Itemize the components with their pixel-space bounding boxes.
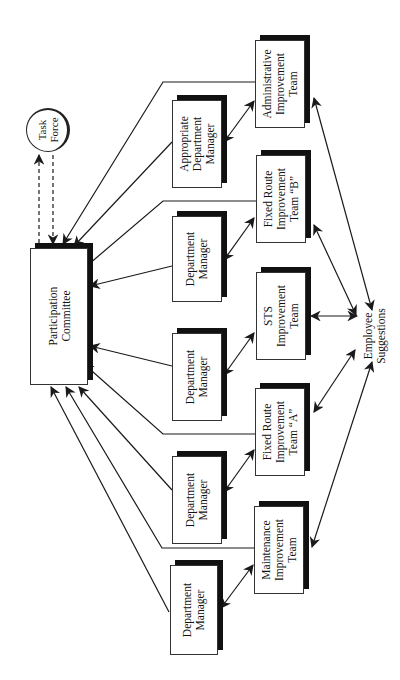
fixed-route-team-a-label: Fixed Route Improvement Team “A” (255, 388, 305, 476)
edge-mgr2-sts (224, 333, 254, 375)
department-manager-1-label: Department Manager (172, 216, 222, 302)
edge-appropriate-mgr-to-committee (74, 142, 172, 246)
edge-mgr1-to-committee (90, 266, 172, 286)
appropriate-department-manager-label: Appropriate Department Manager (172, 100, 222, 188)
edge-suggestions-fixed-b (314, 225, 356, 315)
edge-suggestions-fixed-a (314, 350, 355, 412)
edge-fixed-a-to-committee (84, 364, 255, 434)
edge-suggestions-maintenance (312, 362, 372, 547)
maintenance-improvement-team-label: Maintenance Improvement Team (254, 506, 304, 594)
edge-mgr4-maintenance (221, 565, 253, 608)
edge-mgr2-to-committee (90, 346, 172, 366)
employee-suggestions-label: Employee Suggestions (355, 296, 395, 376)
edge-appropriate-mgr-admin-team (224, 101, 254, 142)
edge-mgr3-to-committee (79, 387, 172, 490)
department-manager-3-label: Department Manager (172, 456, 222, 544)
fixed-route-team-b-label: Fixed Route Improvement Team “B” (256, 155, 306, 243)
edge-fixed-b-to-committee (82, 201, 256, 270)
department-manager-4-label: Department Manager (170, 565, 218, 655)
task-force-label: Task Force (26, 108, 70, 152)
edge-mgr3-fixed-a (224, 450, 254, 492)
edge-suggestions-admin (314, 98, 372, 310)
sts-improvement-team-label: STS Improvement Team (256, 272, 306, 360)
edge-mgr1-fixed-b (224, 218, 254, 260)
department-manager-2-label: Department Manager (172, 333, 222, 421)
administrative-improvement-team-label: Administrative Improvement Team (255, 40, 305, 128)
participation-committee-label: Participation Committee (31, 248, 89, 385)
